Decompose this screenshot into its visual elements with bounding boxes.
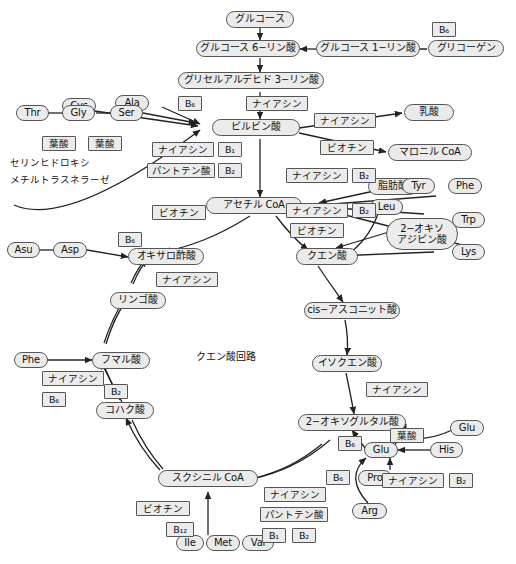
node-phe-left[interactable]: Phe <box>14 352 48 368</box>
vitamin-biotin-succinyl-coa: ビオチン <box>136 501 190 516</box>
node-his[interactable]: His <box>430 442 463 458</box>
node-glyceraldehyde-3-phosphate[interactable]: グリセルアルデヒド 3−リン酸 <box>178 72 324 89</box>
vitamin-b6-arginine: B₆ <box>326 470 350 485</box>
node-2-oxoadipate[interactable]: 2−オキソ アジピン酸 <box>386 218 458 250</box>
vitamin-niacin-isocitrate: ナイアシン <box>366 382 428 397</box>
vitamin-b2-succinyl-coa: B₂ <box>292 528 316 543</box>
vitamin-pantothenic-succinyl-coa: パントテン酸 <box>260 507 328 522</box>
vitamin-niacin-g3p: ナイアシン <box>246 96 308 111</box>
node-glucose-6-phosphate[interactable]: グルコース 6−リン酸 <box>196 40 300 57</box>
vitamin-folate-glycine: 葉酸 <box>42 136 76 151</box>
node-glu-lower[interactable]: Glu <box>364 442 398 458</box>
vitamin-b1-pyruvate: B₁ <box>218 142 242 157</box>
node-cis-aconitate[interactable]: cis−アスコニット酸 <box>304 302 400 319</box>
vitamin-b1-succinyl-coa: B₁ <box>262 528 286 543</box>
node-ser[interactable]: Ser <box>110 105 143 121</box>
vitamin-biotin-leucine: ビオチン <box>290 223 344 238</box>
vitamin-b6-aspartate: B₆ <box>118 232 142 247</box>
node-oxaloacetate[interactable]: オキサロ酢酸 <box>128 248 204 265</box>
node-thr[interactable]: Thr <box>16 105 49 121</box>
vitamin-niacin-pyruvate-right: ナイアシン <box>314 113 376 128</box>
node-glu-upper[interactable]: Glu <box>450 420 484 436</box>
node-lactate[interactable]: 乳酸 <box>404 104 454 121</box>
vitamin-b6-glycogen: B₆ <box>432 22 456 37</box>
node-met[interactable]: Met <box>206 535 240 551</box>
vitamin-folate-histidine: 葉酸 <box>390 428 424 443</box>
node-succinate[interactable]: コハク酸 <box>96 402 154 419</box>
node-glycogen[interactable]: グリコーゲン <box>428 40 504 57</box>
vitamin-b6-glyceraldehyde: B₆ <box>178 96 202 111</box>
node-asp[interactable]: Asp <box>53 242 87 258</box>
vitamin-niacin-proline: ナイアシン <box>382 473 444 488</box>
oxoadipate-line-2: アジピン酸 <box>397 234 446 245</box>
vitamin-niacin-fatty-acid: ナイアシン <box>286 168 348 183</box>
vitamin-folate-serine: 葉酸 <box>88 136 122 151</box>
vitamin-b12-succinyl-coa: B₁₂ <box>166 522 194 537</box>
node-pyruvate[interactable]: ピルビン酸 <box>212 119 300 136</box>
vitamin-b2-fatty-acid: B₂ <box>352 168 376 183</box>
node-tyr[interactable]: Tyr <box>402 178 435 194</box>
cycle-center-label: クエン酸回路 <box>196 348 256 363</box>
node-citrate[interactable]: クエン酸 <box>296 248 358 265</box>
vitamin-b2-pyruvate: B₂ <box>218 163 242 178</box>
vitamin-pantothenic-pyruvate: パントテン酸 <box>147 163 215 178</box>
node-isocitrate[interactable]: イソクエン酸 <box>312 355 382 372</box>
vitamin-biotin-oxaloacetate: ビオチン <box>152 205 206 220</box>
vitamin-b2-succinate: B₂ <box>104 384 128 399</box>
vitamin-niacin-malate: ナイアシン <box>156 272 218 287</box>
node-phe-top[interactable]: Phe <box>448 178 482 194</box>
node-succinyl-coa[interactable]: スクシニル CoA <box>158 470 258 487</box>
node-arg[interactable]: Arg <box>352 503 387 519</box>
metabolic-pathway-diagram: グルコース グルコース 6−リン酸 グルコース 1−リン酸 グリコーゲン グリセ… <box>0 0 516 564</box>
oxoadipate-line-1: 2−オキソ <box>400 223 444 234</box>
node-gly[interactable]: Gly <box>62 105 95 121</box>
node-malonyl-coa[interactable]: マロニル CoA <box>388 144 472 161</box>
node-malate[interactable]: リンゴ酸 <box>110 292 166 309</box>
vitamin-b2-proline: B₂ <box>449 473 473 488</box>
vitamin-niacin-leucine: ナイアシン <box>286 203 348 218</box>
enzyme-note-line-1: セリンヒドロキシ <box>10 155 90 169</box>
node-trp[interactable]: Trp <box>452 212 485 228</box>
node-asu[interactable]: Asu <box>7 242 40 258</box>
vitamin-niacin-pyruvate-left: ナイアシン <box>152 142 214 157</box>
node-ile[interactable]: Ile <box>176 535 204 551</box>
enzyme-note-line-2: メチルトラスネラーゼ <box>10 172 110 186</box>
vitamin-b2-leucine: B₂ <box>352 203 376 218</box>
vitamin-niacin-succinyl-coa: ナイアシン <box>264 487 326 502</box>
vitamin-b6-oxoglutarate: B₆ <box>338 436 362 451</box>
vitamin-b6-phenylalanine: B₆ <box>42 392 66 407</box>
node-fumarate[interactable]: フマル酸 <box>92 352 150 369</box>
node-lys[interactable]: Lys <box>452 244 485 260</box>
node-glucose-1-phosphate[interactable]: グルコース 1−リン酸 <box>316 40 420 57</box>
vitamin-niacin-phenylalanine: ナイアシン <box>42 371 104 386</box>
node-glucose[interactable]: グルコース <box>226 11 294 28</box>
vitamin-biotin-pyruvate-right: ビオチン <box>320 140 374 155</box>
